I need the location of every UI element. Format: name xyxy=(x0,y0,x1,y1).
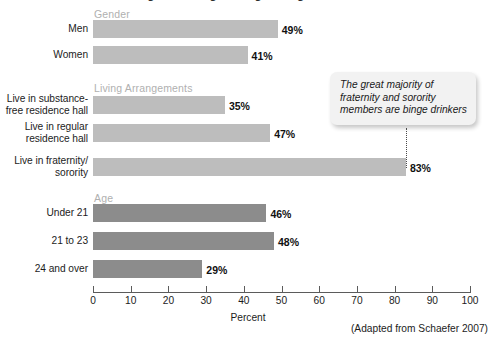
bar-value-label: 49% xyxy=(282,24,303,36)
bar-value-label: 48% xyxy=(278,236,299,248)
plot-area: GenderMen49%Women41%Living ArrangementsL… xyxy=(0,0,496,337)
bar xyxy=(93,124,270,142)
axis-tick-label: 50 xyxy=(276,295,287,306)
bar xyxy=(93,20,278,38)
axis-tick xyxy=(357,286,358,293)
category-label: Men xyxy=(68,23,88,35)
group-header-age: Age xyxy=(94,192,113,204)
axis-tick-label: 0 xyxy=(90,295,96,306)
bar-value-label: 29% xyxy=(206,264,227,276)
category-label: 21 to 23 xyxy=(52,235,88,247)
axis-tick xyxy=(432,286,433,293)
category-label: Live in substance- free residence hall xyxy=(6,93,88,117)
axis-tick-label: 30 xyxy=(200,295,211,306)
bar-value-label: 83% xyxy=(410,162,431,174)
axis-tick-label: 20 xyxy=(163,295,174,306)
bar xyxy=(93,204,266,222)
x-axis-title: Percent xyxy=(0,312,496,323)
axis-tick-label: 100 xyxy=(462,295,479,306)
bar-value-label: 35% xyxy=(229,100,250,112)
bar xyxy=(93,158,406,176)
bar xyxy=(93,96,225,114)
group-header-living-arrangements: Living Arrangements xyxy=(94,82,193,94)
bar-value-label: 46% xyxy=(270,208,291,220)
axis-tick-label: 70 xyxy=(351,295,362,306)
category-label: 24 and over xyxy=(35,263,88,275)
bar xyxy=(93,260,202,278)
axis-tick xyxy=(168,286,169,293)
bar-value-label: 41% xyxy=(252,50,273,62)
bar xyxy=(93,46,248,64)
axis-tick-label: 10 xyxy=(125,295,136,306)
category-label: Women xyxy=(53,49,88,61)
category-label: Live in fraternity/ sorority xyxy=(14,155,88,179)
axis-tick xyxy=(131,286,132,293)
callout-box: The great majority of fraternity and sor… xyxy=(330,72,476,125)
bar xyxy=(93,232,274,250)
axis-tick xyxy=(470,286,471,293)
axis-tick xyxy=(282,286,283,293)
category-label: Under 21 xyxy=(46,207,88,219)
axis-tick xyxy=(319,286,320,293)
group-header-gender: Gender xyxy=(94,8,130,20)
source-note: (Adapted from Schaefer 2007) xyxy=(351,323,488,334)
axis-tick xyxy=(206,286,207,293)
axis-tick xyxy=(93,286,94,293)
axis-tick-label: 80 xyxy=(389,295,400,306)
callout-leader-line xyxy=(406,128,407,168)
axis-tick-label: 40 xyxy=(238,295,249,306)
axis-tick xyxy=(395,286,396,293)
axis-tick-label: 90 xyxy=(427,295,438,306)
bar-value-label: 47% xyxy=(274,128,295,140)
axis-tick-label: 60 xyxy=(314,295,325,306)
axis-tick xyxy=(244,286,245,293)
category-label: Live in regular residence hall xyxy=(25,121,88,145)
binge-drinking-bar-chart: Binge Drinking among College Students Ge… xyxy=(0,0,496,337)
